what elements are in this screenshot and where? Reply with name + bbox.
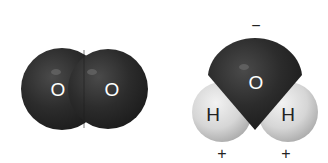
molecule-diagram: O O O H H − + + xyxy=(0,0,328,163)
positive-charge-label-right: + xyxy=(281,145,290,162)
water-hydrogen-label-right: H xyxy=(281,104,295,125)
positive-charge-label-left: + xyxy=(217,145,226,162)
oxygen-label-right: O xyxy=(105,79,120,100)
oxygen-label-left: O xyxy=(51,79,66,100)
water-hydrogen-label-left: H xyxy=(206,104,220,125)
oxygen-molecule xyxy=(21,48,148,130)
water-oxygen-label: O xyxy=(249,72,264,93)
negative-charge-label: − xyxy=(251,17,260,34)
